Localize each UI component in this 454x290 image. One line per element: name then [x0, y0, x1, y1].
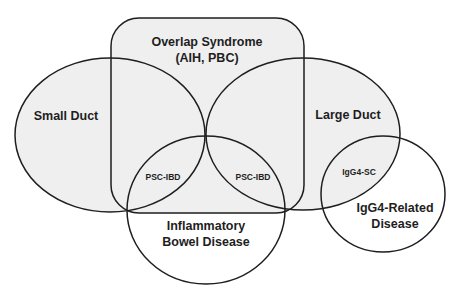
small-duct-label: Small Duct [34, 109, 99, 123]
psc-ibd-left-label: PSC-IBD [146, 172, 181, 182]
large-duct-label: Large Duct [315, 108, 381, 122]
igg4-sc-label: IgG4-SC [342, 167, 376, 177]
overlap-label-line2: (AIH, PBC) [175, 51, 238, 65]
psc-ibd-right-label: PSC-IBD [236, 172, 271, 182]
venn-diagram: Overlap Syndrome (AIH, PBC) Small Duct L… [0, 0, 454, 290]
ibd-label-line2: Bowel Disease [162, 235, 250, 249]
igg4-label-line2: Disease [371, 217, 418, 231]
ibd-label-line1: Inflammatory [167, 219, 246, 233]
overlap-label-line1: Overlap Syndrome [151, 35, 262, 49]
igg4-label-line1: IgG4-Related [356, 201, 433, 215]
